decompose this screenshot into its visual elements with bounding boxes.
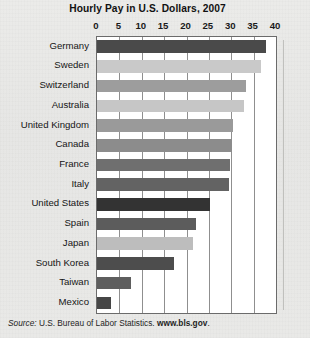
- bar-japan: [97, 237, 193, 250]
- bar-row: [97, 195, 276, 215]
- x-tick-label: 20: [180, 20, 191, 31]
- category-axis-labels: GermanySwedenSwitzerlandAustraliaUnited …: [0, 36, 92, 312]
- bar-row: [97, 76, 276, 96]
- category-label-canada: Canada: [0, 138, 92, 149]
- x-tick-label: 30: [225, 20, 236, 31]
- bar-row: [97, 155, 276, 175]
- x-axis-tick-labels: 0510152025303540: [0, 20, 310, 34]
- bar-row: [97, 214, 276, 234]
- category-label-south-korea: South Korea: [0, 257, 92, 268]
- x-tick-label: 5: [116, 20, 121, 31]
- bar-united-states: [97, 198, 210, 211]
- bar-south-korea: [97, 257, 174, 270]
- bar-row: [97, 254, 276, 274]
- bar-italy: [97, 178, 229, 191]
- bar-australia: [97, 100, 244, 113]
- bar-chart-figure: Hourly Pay in U.S. Dollars, 2007 0510152…: [0, 0, 310, 338]
- bar-row: [97, 273, 276, 293]
- bars-container: [97, 37, 276, 313]
- bar-spain: [97, 218, 196, 231]
- x-tick-label: 35: [247, 20, 258, 31]
- bar-row: [97, 293, 276, 313]
- right-margin-rule: [283, 40, 284, 310]
- category-label-united-kingdom: United Kingdom: [0, 119, 92, 130]
- bar-mexico: [97, 297, 111, 310]
- bar-switzerland: [97, 80, 246, 93]
- source-label: Source:: [8, 318, 37, 328]
- category-label-japan: Japan: [0, 237, 92, 248]
- bar-united-kingdom: [97, 119, 233, 132]
- category-label-mexico: Mexico: [0, 296, 92, 307]
- bar-row: [97, 234, 276, 254]
- bar-row: [97, 96, 276, 116]
- x-tick-label: 10: [135, 20, 146, 31]
- bar-row: [97, 175, 276, 195]
- x-tick-label: 40: [270, 20, 281, 31]
- category-label-italy: Italy: [0, 178, 92, 189]
- source-note: Source: U.S. Bureau of Labor Statistics.…: [8, 318, 210, 328]
- bar-row: [97, 136, 276, 156]
- category-label-france: France: [0, 158, 92, 169]
- x-tick-label: 25: [203, 20, 214, 31]
- bar-taiwan: [97, 277, 131, 290]
- source-url[interactable]: www.bls.gov: [157, 318, 207, 328]
- source-body: U.S. Bureau of Labor Statistics.: [37, 318, 157, 328]
- bar-france: [97, 159, 230, 172]
- x-tick-label: 0: [93, 20, 98, 31]
- chart-title: Hourly Pay in U.S. Dollars, 2007: [0, 3, 295, 14]
- bar-sweden: [97, 60, 261, 73]
- category-label-united-states: United States: [0, 197, 92, 208]
- bar-row: [97, 57, 276, 77]
- category-label-spain: Spain: [0, 217, 92, 228]
- bar-canada: [97, 139, 232, 152]
- category-label-germany: Germany: [0, 40, 92, 51]
- category-label-sweden: Sweden: [0, 59, 92, 70]
- plot-area: [96, 36, 277, 314]
- category-label-australia: Australia: [0, 99, 92, 110]
- bar-row: [97, 37, 276, 57]
- bar-row: [97, 116, 276, 136]
- category-label-switzerland: Switzerland: [0, 79, 92, 90]
- source-end: .: [207, 318, 209, 328]
- category-label-taiwan: Taiwan: [0, 276, 92, 287]
- bar-germany: [97, 40, 266, 53]
- x-tick-label: 15: [158, 20, 169, 31]
